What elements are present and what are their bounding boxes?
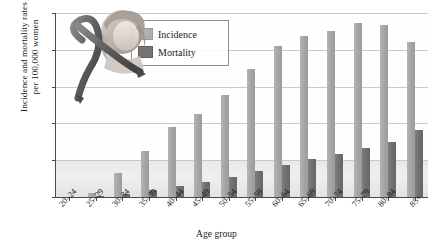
y-axis-title: Incidence and mortality rates per 100,00… [19,0,39,130]
legend-swatch-mortality [138,46,153,58]
bar-group [295,13,322,197]
bar-group [269,13,296,197]
bar-group [375,13,402,197]
bar-group [56,13,83,197]
legend-swatch-incidence [138,28,153,40]
bar-incidence [274,46,282,197]
plot-area: 0100200300400500 [56,13,428,197]
chart-legend: Incidence Mortality [131,20,229,66]
bar-group [348,13,375,197]
legend-item-incidence: Incidence [138,25,222,43]
bar-incidence [300,36,308,197]
bar-group [402,13,429,197]
bar-group [83,13,110,197]
bar-incidence [354,23,362,197]
bar-group [242,13,269,197]
bar-mortality [415,130,423,197]
bar-incidence [194,114,202,197]
bar-series-container [56,13,428,197]
legend-label-mortality: Mortality [158,47,196,58]
bar-incidence [168,127,176,197]
bar-incidence [380,25,388,197]
bar-incidence [247,69,255,197]
breast-cancer-rates-bar-chart: Incidence and mortality rates per 100,00… [0,0,433,245]
bar-incidence [407,42,415,197]
x-axis-title: Age group [0,228,433,239]
bar-group [322,13,349,197]
bar-incidence [221,95,229,197]
bar-incidence [327,31,335,197]
legend-item-mortality: Mortality [138,43,222,61]
legend-label-incidence: Incidence [158,29,197,40]
